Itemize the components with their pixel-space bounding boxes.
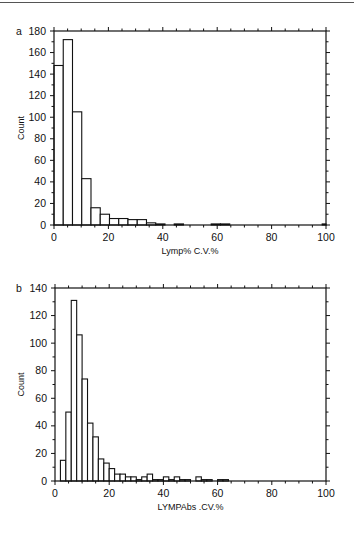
histogram-panel-b: 020406080100020406080100120140bLYMPAbs .… — [0, 262, 354, 534]
histogram-bar — [54, 65, 63, 225]
y-tick-label: 20 — [35, 447, 47, 459]
histogram-bar — [142, 477, 147, 481]
panel-label: a — [16, 25, 22, 37]
histogram-bar — [137, 220, 146, 225]
histogram-bar — [82, 179, 91, 225]
x-tick-label: 100 — [317, 487, 335, 499]
x-tick-label: 0 — [52, 487, 58, 499]
histogram-bar — [109, 219, 118, 225]
y-tick-label: 140 — [28, 68, 46, 80]
histogram-bar — [71, 300, 76, 481]
histogram-bar — [82, 379, 87, 481]
histogram-bar — [147, 474, 152, 481]
y-tick-label: 40 — [34, 175, 46, 187]
x-tick-label: 40 — [158, 487, 170, 499]
x-tick-label: 0 — [51, 231, 57, 243]
y-tick-label: 0 — [40, 219, 46, 231]
x-tick-label: 20 — [103, 231, 115, 243]
x-tick-label: 80 — [266, 231, 278, 243]
y-tick-label: 120 — [28, 89, 46, 101]
y-tick-label: 80 — [34, 132, 46, 144]
y-tick-label: 100 — [28, 111, 46, 123]
histogram-bar — [88, 423, 93, 481]
x-tick-label: 80 — [266, 487, 278, 499]
y-axis-label: Count — [16, 116, 26, 141]
y-tick-label: 60 — [35, 392, 47, 404]
histogram-bar — [131, 477, 136, 481]
histogram-bar — [60, 460, 65, 481]
histogram-bar — [93, 437, 98, 481]
x-tick-label: 100 — [317, 231, 335, 243]
histogram-bar — [104, 463, 109, 481]
histogram-bar — [98, 459, 103, 481]
histogram-bar — [63, 40, 72, 225]
y-tick-label: 160 — [28, 46, 46, 58]
y-tick-label: 60 — [34, 154, 46, 166]
x-axis-label: LYMPAbs .CV.% — [158, 502, 224, 512]
x-axis-label: Lymp% C.V.% — [162, 246, 219, 256]
y-tick-label: 80 — [35, 364, 47, 376]
histogram-bar — [125, 477, 130, 481]
histogram-bar — [196, 477, 201, 481]
y-tick-label: 40 — [35, 419, 47, 431]
histogram-bar — [174, 477, 179, 481]
y-tick-label: 180 — [28, 25, 46, 37]
histogram-bar — [77, 335, 82, 481]
y-tick-label: 120 — [29, 309, 47, 321]
plot-frame — [54, 31, 326, 225]
histogram-bars — [60, 300, 228, 481]
y-tick-label: 140 — [29, 282, 47, 294]
y-axis-label: Count — [16, 372, 26, 397]
x-tick-label: 60 — [212, 487, 224, 499]
histogram-bar — [120, 474, 125, 481]
histogram-bar — [163, 477, 168, 481]
histogram-bar — [119, 219, 128, 225]
panel-label: b — [16, 282, 22, 294]
histogram-bar — [100, 214, 109, 225]
histogram-bars — [54, 40, 326, 225]
y-tick-label: 100 — [29, 337, 47, 349]
histogram-bar — [109, 469, 114, 481]
x-tick-label: 40 — [157, 231, 169, 243]
histogram-bar — [91, 208, 100, 225]
x-tick-label: 20 — [103, 487, 115, 499]
histogram-bar — [128, 220, 137, 225]
histogram-bar — [66, 412, 71, 481]
y-tick-label: 0 — [41, 475, 47, 487]
histogram-bar — [115, 474, 120, 481]
histogram-bar — [72, 112, 81, 225]
y-tick-label: 20 — [34, 197, 46, 209]
x-tick-label: 60 — [211, 231, 223, 243]
histogram-panel-a: 020406080100020406080100120140160180aLym… — [0, 0, 354, 262]
